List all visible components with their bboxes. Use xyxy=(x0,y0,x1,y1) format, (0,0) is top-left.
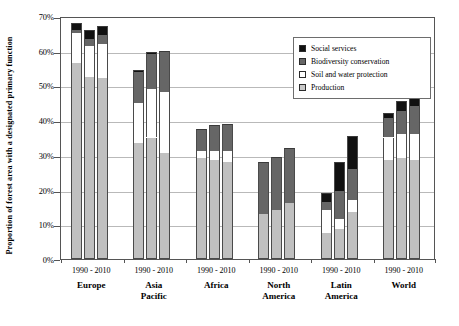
bar-segment-production xyxy=(396,158,407,259)
gridline xyxy=(61,157,434,158)
bar-segment-biodiversity-conservation xyxy=(196,129,207,152)
bar-segment-production xyxy=(209,160,220,259)
bar-stack[interactable] xyxy=(271,16,282,259)
x-year-range-label: 1990 - 2010 xyxy=(123,266,186,275)
bar-segment-production xyxy=(284,203,295,259)
legend-item-biodiversity-conservation[interactable]: Biodiversity conservation xyxy=(299,55,426,68)
bar-stack[interactable] xyxy=(159,16,170,259)
x-group-label-line: Africa xyxy=(185,280,248,291)
bar-segment-social-services xyxy=(383,113,394,118)
bar-stack[interactable] xyxy=(222,16,233,259)
x-group-label: NorthAmerica xyxy=(248,280,311,302)
legend-label: Social services xyxy=(311,44,356,53)
bar-segment-production xyxy=(334,229,345,259)
x-year-range-label: 1990 - 2010 xyxy=(310,266,373,275)
y-tick-label: 10% xyxy=(39,221,54,230)
x-group-label-line: World xyxy=(373,280,436,291)
x-year-range-label: 1990 - 2010 xyxy=(185,266,248,275)
y-axis-tick xyxy=(54,53,60,54)
bar-segment-soil-and-water-protection xyxy=(71,33,82,63)
bar-segment-biodiversity-conservation xyxy=(84,39,95,46)
bar-segment-soil-and-water-protection xyxy=(334,219,345,229)
bar-segment-soil-and-water-protection xyxy=(222,151,233,161)
y-tick-label: 30% xyxy=(39,151,54,160)
x-group-label: Africa xyxy=(185,280,248,291)
legend-swatch-icon xyxy=(299,58,306,65)
y-axis-tick xyxy=(54,260,60,261)
bar-stack[interactable] xyxy=(97,16,108,259)
bar-segment-biodiversity-conservation xyxy=(159,52,170,92)
bar-segment-biodiversity-conservation xyxy=(409,106,420,134)
bar-segment-production xyxy=(271,210,282,259)
bar-segment-social-services xyxy=(84,30,95,39)
bar-segment-soil-and-water-protection xyxy=(321,210,332,233)
legend-item-soil-and-water-protection[interactable]: Soil and water protection xyxy=(299,68,426,81)
x-year-range-label: 1990 - 2010 xyxy=(373,266,436,275)
x-group-label: World xyxy=(373,280,436,291)
bar-segment-biodiversity-conservation xyxy=(209,125,220,151)
x-group-label-line: America xyxy=(248,291,311,302)
y-tick-label: 40% xyxy=(39,117,54,126)
bar-segment-production xyxy=(347,212,358,259)
bar-stack[interactable] xyxy=(133,16,144,259)
bar-segment-social-services xyxy=(334,162,345,192)
y-axis-tick xyxy=(54,122,60,123)
bar-segment-soil-and-water-protection xyxy=(97,44,108,79)
bar-segment-production xyxy=(409,160,420,259)
bar-segment-soil-and-water-protection xyxy=(159,92,170,153)
bar-segment-biodiversity-conservation xyxy=(347,169,358,200)
bar-segment-biodiversity-conservation xyxy=(146,54,157,89)
bar-segment-biodiversity-conservation xyxy=(258,162,269,214)
bar-segment-production xyxy=(146,138,157,260)
bar-stack[interactable] xyxy=(146,16,157,259)
y-tick-label: 20% xyxy=(39,186,54,195)
x-group-label-line: Europe xyxy=(60,280,123,291)
bar-segment-social-services xyxy=(396,101,407,111)
y-tick-label: 0% xyxy=(43,256,54,265)
gridline xyxy=(61,122,434,123)
legend: Social servicesBiodiversity conservation… xyxy=(293,37,431,99)
bar-stack[interactable] xyxy=(84,16,95,259)
y-axis-tick xyxy=(54,157,60,158)
bar-segment-social-services xyxy=(347,136,358,169)
plot-area: Social servicesBiodiversity conservation… xyxy=(60,17,435,260)
legend-label: Biodiversity conservation xyxy=(311,57,389,66)
bar-segment-production xyxy=(159,153,170,259)
y-axis-title-text: Proportion of forest area with a designa… xyxy=(6,36,15,254)
legend-item-production[interactable]: Production xyxy=(299,81,426,94)
legend-label: Production xyxy=(311,83,344,92)
x-group-label: LatinAmerica xyxy=(310,280,373,302)
bar-segment-soil-and-water-protection xyxy=(146,89,157,138)
bar-stack[interactable] xyxy=(196,16,207,259)
legend-item-social-services[interactable]: Social services xyxy=(299,42,426,55)
bar-segment-production xyxy=(321,233,332,259)
y-tick-label: 70% xyxy=(39,13,54,22)
bar-segment-production xyxy=(196,158,207,259)
bar-segment-production xyxy=(71,63,82,259)
bar-segment-social-services xyxy=(97,26,108,35)
bar-segment-social-services xyxy=(146,52,157,54)
bar-segment-biodiversity-conservation xyxy=(271,157,282,211)
legend-swatch-icon xyxy=(299,71,306,78)
x-group-label-line: America xyxy=(310,291,373,302)
x-group-label-line: Pacific xyxy=(123,291,186,302)
x-axis-tick xyxy=(435,259,436,263)
bar-segment-soil-and-water-protection xyxy=(409,134,420,160)
bar-stack[interactable] xyxy=(71,16,82,259)
y-axis-tick xyxy=(54,192,60,193)
y-tick-label: 60% xyxy=(39,47,54,56)
bar-segment-biodiversity-conservation xyxy=(71,30,82,33)
bar-segment-production xyxy=(97,78,108,259)
legend-label: Soil and water protection xyxy=(311,70,388,79)
bar-stack[interactable] xyxy=(258,16,269,259)
y-axis-tick xyxy=(54,226,60,227)
bar-segment-biodiversity-conservation xyxy=(334,191,345,219)
bar-segment-production xyxy=(84,77,95,259)
gridline xyxy=(61,192,434,193)
figure: Proportion of forest area with a designa… xyxy=(0,0,459,326)
bar-segment-biodiversity-conservation xyxy=(321,202,332,211)
bar-segment-social-services xyxy=(321,193,332,202)
bar-segment-soil-and-water-protection xyxy=(209,151,220,160)
bar-stack[interactable] xyxy=(209,16,220,259)
bar-segment-biodiversity-conservation xyxy=(284,148,295,204)
